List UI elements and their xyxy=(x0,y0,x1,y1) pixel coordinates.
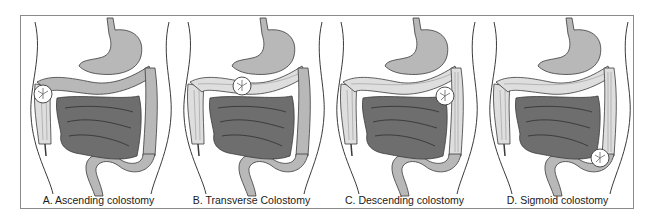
appendix xyxy=(504,144,505,156)
sigmoid-colon-rectum xyxy=(86,154,155,197)
stomach xyxy=(79,18,142,74)
stoma-icon xyxy=(34,85,52,103)
appendix xyxy=(198,144,199,156)
appendix xyxy=(45,144,46,156)
panel-ascending-colostomy: A. Ascending colostomy xyxy=(21,16,176,210)
panel-sigmoid-colostomy: D. Sigmoid colostomy xyxy=(480,16,635,210)
panel-descending-colostomy: C. Descending colostomy xyxy=(327,16,482,210)
panel-transverse-colostomy: B. Transverse Colostomy xyxy=(174,16,329,210)
figure-frame: A. Ascending colostomy B. Transverse Col… xyxy=(20,15,634,209)
panel-caption: A. Ascending colostomy xyxy=(21,194,176,206)
stomach xyxy=(385,18,448,74)
panel-caption: B. Transverse Colostomy xyxy=(174,194,329,206)
stoma-icon xyxy=(436,87,454,105)
sigmoid-colon-rectum xyxy=(239,154,308,197)
sigmoid-colon-rectum xyxy=(392,154,461,197)
stoma-icon xyxy=(591,149,609,167)
panel-caption: D. Sigmoid colostomy xyxy=(480,194,635,206)
panel-caption: C. Descending colostomy xyxy=(327,194,482,206)
stoma-icon xyxy=(233,77,251,95)
stomach xyxy=(538,18,601,74)
appendix xyxy=(351,144,352,156)
stomach xyxy=(232,18,295,74)
